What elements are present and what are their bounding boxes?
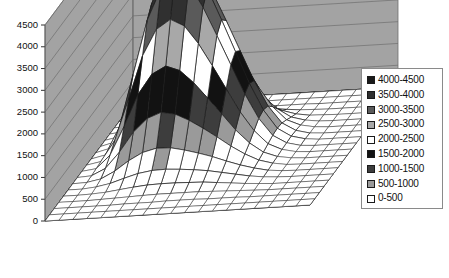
surface-chart-container: 450040003500300025002000150010005000 400… xyxy=(0,0,449,278)
z-axis-tick-label: 4000 xyxy=(17,40,38,51)
legend-swatch-icon xyxy=(367,136,375,144)
legend-item-label: 1000-1500 xyxy=(378,162,424,177)
z-axis-tick-label: 0 xyxy=(33,215,38,226)
legend-swatch-icon xyxy=(367,106,375,114)
legend-item-label: 1500-2000 xyxy=(378,147,424,162)
legend-item[interactable]: 3000-3500 xyxy=(367,103,439,118)
legend-item[interactable]: 1500-2000 xyxy=(367,147,439,162)
legend-item-label: 0-500 xyxy=(378,191,403,206)
legend-item-label: 4000-4500 xyxy=(378,73,424,88)
legend-item[interactable]: 3500-4000 xyxy=(367,88,439,103)
legend-item[interactable]: 0-500 xyxy=(367,191,439,206)
legend-swatch-icon xyxy=(367,76,375,84)
legend-item[interactable]: 2000-2500 xyxy=(367,132,439,147)
chart-legend: 4000-45003500-40003000-35002500-30002000… xyxy=(361,68,443,209)
legend-swatch-icon xyxy=(367,121,375,129)
legend-swatch-icon xyxy=(367,195,375,203)
z-axis-tick-label: 2500 xyxy=(17,106,38,117)
z-axis: 450040003500300025002000150010005000 xyxy=(17,19,45,226)
z-axis-tick-label: 3500 xyxy=(17,62,38,73)
z-axis-tick-label: 2000 xyxy=(17,127,38,138)
z-axis-tick-label: 1000 xyxy=(17,171,38,182)
legend-swatch-icon xyxy=(367,180,375,188)
legend-item-label: 500-1000 xyxy=(378,177,419,192)
legend-item-label: 2000-2500 xyxy=(378,132,424,147)
legend-swatch-icon xyxy=(367,91,375,99)
legend-swatch-icon xyxy=(367,165,375,173)
legend-item[interactable]: 2500-3000 xyxy=(367,117,439,132)
z-axis-tick-label: 1500 xyxy=(17,149,38,160)
legend-item[interactable]: 500-1000 xyxy=(367,177,439,192)
z-axis-tick-label: 3000 xyxy=(17,84,38,95)
legend-swatch-icon xyxy=(367,150,375,158)
legend-item[interactable]: 1000-1500 xyxy=(367,162,439,177)
legend-item[interactable]: 4000-4500 xyxy=(367,73,439,88)
legend-item-label: 3000-3500 xyxy=(378,103,424,118)
legend-item-label: 2500-3000 xyxy=(378,117,424,132)
z-axis-tick-label: 500 xyxy=(22,193,38,204)
z-axis-tick-label: 4500 xyxy=(17,19,38,30)
legend-item-label: 3500-4000 xyxy=(378,88,424,103)
